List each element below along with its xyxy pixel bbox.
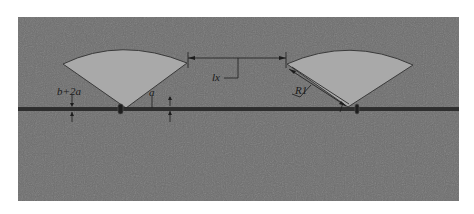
pipe-line (18, 108, 459, 112)
left-sprinkler-head (118, 104, 123, 114)
pipe-width-label: b+2a (57, 85, 81, 97)
radius-label: R1 (294, 84, 307, 96)
sprinkler-diagram: b+2a a lx R1 (0, 0, 474, 214)
offset-label: a (149, 86, 155, 98)
right-sprinkler-head (355, 104, 359, 114)
spacing-label: lx (212, 71, 220, 83)
